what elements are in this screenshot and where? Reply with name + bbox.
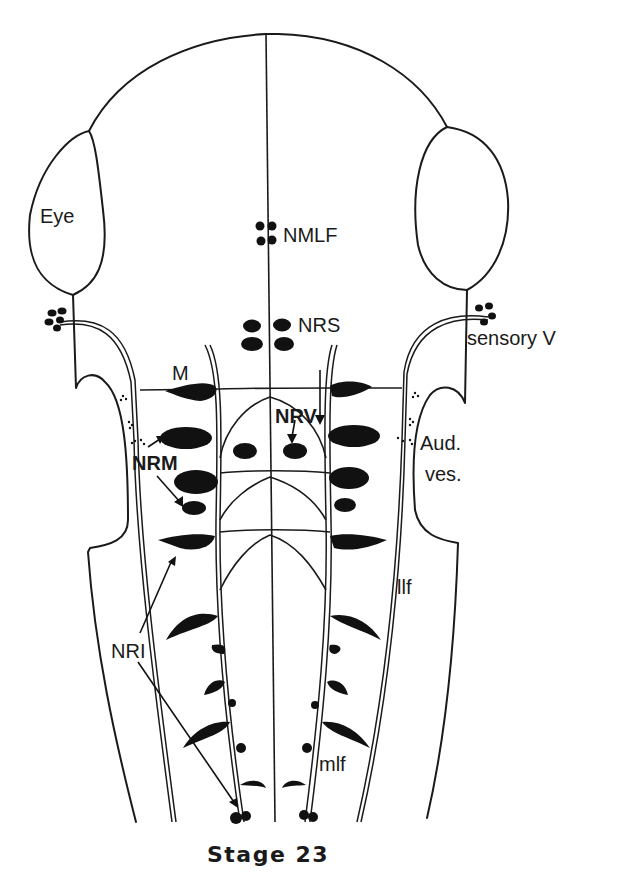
right-body-outline: [414, 290, 467, 818]
left-nri-upper: [158, 534, 215, 549]
left-nrv-neuron: [233, 443, 257, 459]
right-eye: [415, 127, 508, 290]
right-nrm-upper: [328, 425, 380, 447]
right-nri-upper: [330, 534, 387, 549]
label-nrv: NRV: [275, 405, 318, 427]
arch-2: [220, 477, 326, 520]
right-nri-small-1: [311, 701, 319, 709]
label-mlf: mlf: [319, 753, 346, 775]
right-nri-spot-2: [327, 681, 348, 695]
label-aud-ves-2: ves.: [425, 463, 462, 485]
nrs-nucleus: [241, 319, 294, 352]
left-nri-spot-2: [204, 680, 225, 695]
left-nrm-lower: [182, 501, 206, 515]
left-nri-bottom-cluster: [230, 811, 251, 824]
label-eye: Eye: [40, 205, 74, 227]
right-nrm-lower: [334, 498, 356, 512]
right-nri-lower: [322, 722, 370, 748]
right-nrv-neuron: [283, 443, 307, 459]
left-nrm-upper: [160, 427, 212, 449]
right-sensory-v-tract-inner: [361, 319, 488, 822]
left-nri-lower: [183, 722, 230, 748]
right-nri-branch-1: [330, 615, 381, 640]
right-mauthner-cell: [330, 382, 372, 398]
label-m: M: [172, 362, 189, 384]
head-outline: [89, 34, 447, 131]
transverse-line-3: [220, 530, 330, 532]
left-nrm-middle: [174, 470, 218, 494]
label-nri: NRI: [111, 640, 145, 662]
label-nmlf: NMLF: [283, 224, 337, 246]
left-nri-spot-1: [212, 644, 226, 654]
right-nri-bottom-cap: [282, 781, 306, 788]
right-nri-small-2: [302, 743, 312, 753]
left-nri-bottom-cap: [240, 781, 266, 788]
figure-title: Stage 23: [207, 842, 329, 867]
left-nri-small-1: [228, 699, 236, 707]
right-nri-bottom-cluster: [299, 810, 318, 822]
right-nrm-middle: [329, 467, 369, 489]
label-nrm: NRM: [132, 452, 178, 474]
label-sensory-v: sensory V: [467, 327, 557, 349]
left-body-outline: [73, 295, 136, 822]
left-sensory-v-ganglion: [45, 308, 67, 332]
right-nri-spot-1: [329, 645, 340, 654]
label-aud-ves-1: Aud.: [420, 432, 461, 454]
transverse-line-2: [220, 471, 330, 473]
left-mauthner-cell: [165, 383, 217, 401]
midline: [266, 34, 275, 822]
brainstem-diagram: Eye NMLF NRS sensory V M NRV NRM Aud. ve…: [0, 0, 623, 878]
left-nri-branch-1: [166, 614, 218, 640]
left-nri-small-2: [236, 743, 246, 753]
label-llf: llf: [397, 576, 412, 598]
nmlf-nucleus: [256, 222, 277, 246]
label-nrs: NRS: [298, 314, 340, 336]
right-sensory-v-ganglion: [475, 303, 496, 326]
